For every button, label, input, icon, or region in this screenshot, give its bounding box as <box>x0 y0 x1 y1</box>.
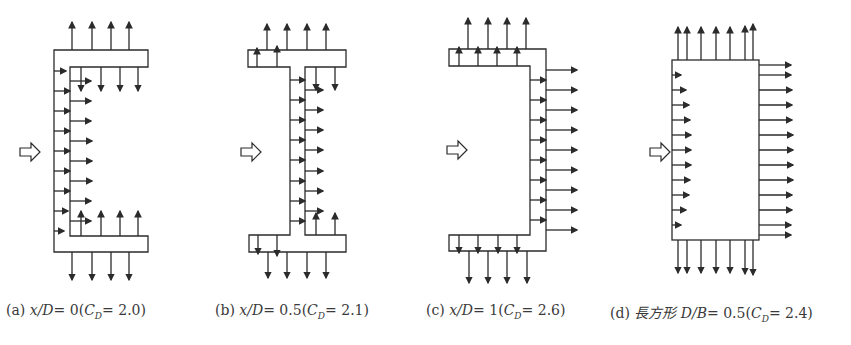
wind-direction-arrow-icon <box>447 141 467 159</box>
pressure-diagram-c <box>420 0 620 300</box>
wind-direction-arrow-icon <box>241 143 261 161</box>
pressure-diagram-d <box>610 0 851 300</box>
panel-a: (a) x/D= 0(CD= 2.0) <box>0 0 215 345</box>
wind-direction-arrow-icon <box>650 143 670 161</box>
caption-b: (b) x/D= 0.5(CD= 2.1) <box>215 302 369 321</box>
panel-c: (c) x/D= 1(CD= 2.6) <box>420 0 620 345</box>
caption-c: (c) x/D= 1(CD= 2.6) <box>426 302 565 321</box>
panel-d: (d) 長方形 D/B= 0.5(CD= 2.4) <box>610 0 851 345</box>
caption-a: (a) x/D= 0(CD= 2.0) <box>6 302 146 321</box>
pressure-diagram-b <box>215 0 420 300</box>
pressure-diagram-a <box>0 0 215 300</box>
wind-direction-arrow-icon <box>20 143 40 161</box>
caption-d: (d) 長方形 D/B= 0.5(CD= 2.4) <box>610 302 813 324</box>
panel-b: (b) x/D= 0.5(CD= 2.1) <box>215 0 420 345</box>
